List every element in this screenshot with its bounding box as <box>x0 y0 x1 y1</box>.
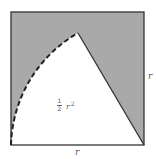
sector-diagram <box>0 0 156 159</box>
area-variable: r2 <box>66 101 75 111</box>
side-label-right: r <box>148 72 152 81</box>
area-fraction: 1 2 <box>57 98 62 112</box>
area-exponent: 2 <box>71 100 75 107</box>
fraction-denominator: 2 <box>58 106 62 112</box>
side-label-bottom: r <box>75 148 79 157</box>
area-var-r: r <box>66 102 70 111</box>
fraction-numerator: 1 <box>58 98 62 104</box>
